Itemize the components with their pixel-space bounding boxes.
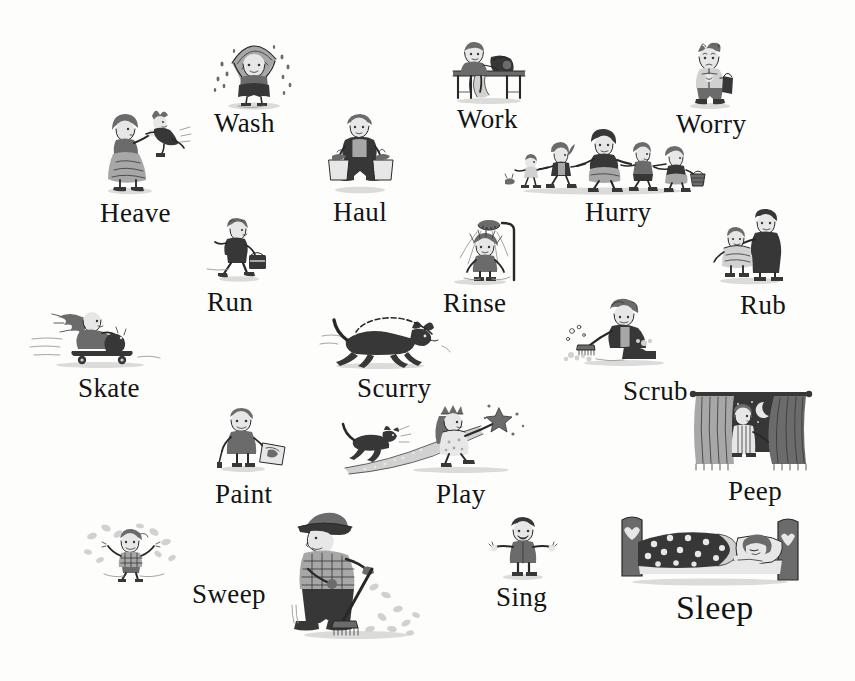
word-label-work: Work [457, 106, 518, 133]
illustration-sweep-leaves [80, 520, 190, 582]
illustration-play [341, 400, 541, 476]
illustration-run [205, 217, 273, 283]
word-label-skate: Skate [78, 375, 140, 402]
illustration-peep [690, 384, 812, 472]
illustration-sleep [614, 508, 806, 586]
illustration-skate [30, 305, 160, 371]
illustration-rinse [440, 218, 532, 286]
illustration-heave [94, 106, 194, 196]
word-label-heave: Heave [100, 200, 171, 227]
word-label-worry: Worry [676, 111, 746, 138]
word-label-rinse: Rinse [443, 290, 507, 317]
word-label-sing: Sing [496, 584, 547, 611]
word-label-haul: Haul [333, 199, 387, 226]
illustration-work [441, 35, 537, 105]
picture-book-page: Wash Work Worry Heave Haul Hurry Run Rin… [0, 0, 855, 681]
word-label-paint: Paint [215, 481, 273, 508]
illustration-paint [205, 407, 291, 475]
word-label-sleep: Sleep [676, 591, 754, 625]
word-label-run: Run [207, 289, 253, 316]
illustration-sweep-man-raking [286, 505, 436, 641]
illustration-scrub [562, 297, 678, 369]
illustration-wash [204, 33, 304, 111]
illustration-rub [705, 208, 795, 286]
word-label-scrub: Scrub [623, 378, 688, 405]
illustration-sing [489, 515, 557, 581]
word-label-rub: Rub [740, 292, 786, 319]
word-label-peep: Peep [728, 478, 782, 505]
word-label-sweep: Sweep [192, 581, 266, 608]
illustration-haul [319, 112, 401, 194]
word-label-scurry: Scurry [357, 375, 431, 402]
word-label-wash: Wash [214, 110, 275, 137]
illustration-scurry [320, 312, 450, 370]
word-label-hurry: Hurry [585, 199, 651, 226]
word-label-play: Play [436, 481, 486, 508]
illustration-worry [676, 38, 746, 110]
